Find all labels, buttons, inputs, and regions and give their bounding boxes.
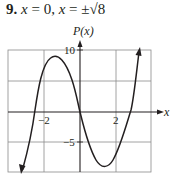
curve-arrow-up-icon — [136, 47, 142, 56]
y-tick-neg5: −5 — [63, 136, 75, 148]
curve — [23, 52, 139, 170]
x-tick-neg2: −2 — [38, 114, 50, 126]
y-tick-10: 10 — [64, 44, 76, 56]
polynomial-graph: P(x) x 10 −5 −2 2 — [0, 0, 172, 175]
x-axis-arrow-icon — [157, 110, 164, 115]
axes — [8, 40, 164, 172]
y-axis-label: P(x) — [72, 24, 94, 38]
x-axis-label: x — [163, 105, 170, 119]
curve-arrow-down-icon — [19, 164, 26, 174]
y-axis-arrow-icon — [78, 40, 83, 47]
x-tick-2: 2 — [113, 114, 119, 126]
